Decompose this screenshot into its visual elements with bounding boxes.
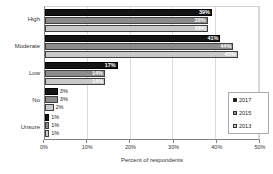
y-axis-label: High [0,6,40,33]
bar-row: 3% [45,96,259,103]
bar-value-label: 41% [207,35,220,42]
bar [45,17,208,24]
bar-value-label: 38% [195,25,208,32]
x-tick-label: 20% [125,144,136,150]
bar-value-label: 44% [220,43,233,50]
bar-groups: 39%38%38%41%44%45%17%14%14%3%3%2%1%1%1% [45,7,259,139]
bar [45,104,54,111]
bar-row: 1% [45,130,259,137]
bar [45,25,208,32]
x-tick-label: 0% [40,144,48,150]
bar-row: 45% [45,51,259,58]
x-axis-title: Percent of respondents [44,157,260,163]
bar-value-label: 3% [58,96,68,103]
x-tick-label: 40% [211,144,222,150]
x-tick-mark [216,140,217,143]
bar-group: 3%3%2% [45,86,259,112]
y-axis-label: Low [0,60,40,87]
bar-row: 1% [45,122,259,129]
legend-swatch [233,124,237,128]
bar-value-label: 1% [49,122,59,129]
x-tick-label: 50% [254,144,265,150]
bar-row: 1% [45,114,259,121]
bar-row: 38% [45,25,259,32]
bar-value-label: 14% [92,78,105,85]
bar-value-label: 1% [49,114,59,121]
bar-row: 2% [45,104,259,111]
bar-row: 14% [45,78,259,85]
bar-group: 39%38%38% [45,7,259,33]
bar-value-label: 17% [105,62,118,69]
bar [45,9,212,16]
x-tick-mark [173,140,174,143]
bar-value-label: 14% [92,70,105,77]
legend-label: 2015 [239,110,251,116]
bar-row: 41% [45,35,259,42]
y-axis-label: Unsure [0,113,40,140]
bar-row: 3% [45,88,259,95]
bar-row: 38% [45,17,259,24]
bar [45,88,58,95]
bar [45,96,58,103]
legend-swatch [233,98,237,102]
bar-value-label: 45% [225,51,238,58]
legend-label: 2013 [239,123,251,129]
legend-entry: 2015 [233,110,268,116]
bar [45,35,220,42]
legend-swatch [233,111,237,115]
bar-value-label: 3% [58,88,68,95]
bar-row: 14% [45,70,259,77]
x-tick-mark [86,140,87,143]
bar [45,51,238,58]
bar-value-label: 38% [195,17,208,24]
legend: 201720152013 [228,92,269,134]
bar-group: 1%1%1% [45,113,259,139]
y-axis-label: Moderate [0,33,40,60]
bar-value-label: 1% [49,130,59,137]
bar-chart: HighModerateLowNoUnsure 39%38%38%41%44%4… [0,0,273,174]
x-tick-mark [43,140,44,143]
x-tick-mark [259,140,260,143]
y-axis-label: No [0,86,40,113]
bar-group: 41%44%45% [45,33,259,59]
x-axis: 0%10%20%30%40%50% [44,140,260,152]
bar-group: 17%14%14% [45,60,259,86]
x-tick-mark [129,140,130,143]
legend-label: 2017 [239,97,251,103]
x-tick-label: 10% [82,144,93,150]
legend-entry: 2013 [233,123,268,129]
x-tick-label: 30% [168,144,179,150]
bar-value-label: 2% [54,104,64,111]
bar-row: 39% [45,9,259,16]
y-axis-labels: HighModerateLowNoUnsure [0,6,40,140]
bar-row: 17% [45,62,259,69]
bar-row: 44% [45,43,259,50]
bar-value-label: 39% [199,9,212,16]
legend-entry: 2017 [233,97,268,103]
bar [45,43,233,50]
